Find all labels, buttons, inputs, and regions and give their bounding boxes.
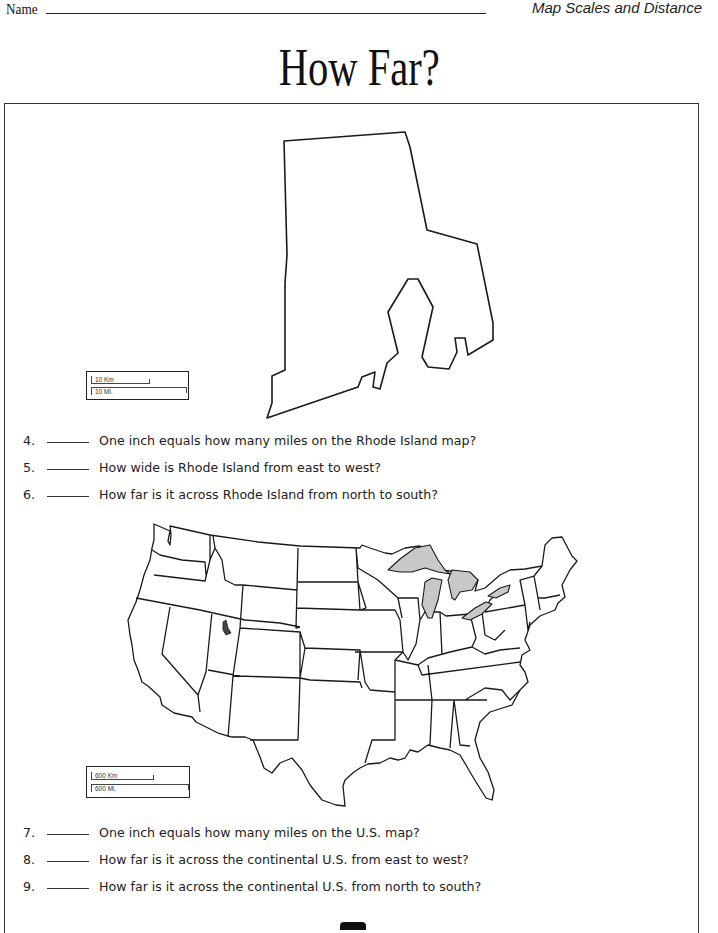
answer-blank-5[interactable]	[47, 468, 89, 470]
footer-emblem-icon	[340, 922, 366, 930]
scale-km: 600 Km	[91, 772, 153, 780]
question-9: 9.How far is it across the continental U…	[23, 879, 481, 894]
question-7: 7.One inch equals how many miles on the …	[23, 825, 420, 840]
scale-km: 10 Km	[91, 376, 149, 384]
answer-blank-9[interactable]	[47, 887, 89, 889]
answer-blank-7[interactable]	[47, 833, 89, 835]
scale-mi: 600 Mi.	[91, 784, 188, 792]
question-4: 4.One inch equals how many miles on the …	[23, 433, 476, 448]
us-map	[128, 524, 577, 806]
answer-blank-4[interactable]	[47, 441, 89, 443]
question-5: 5.How wide is Rhode Island from east to …	[23, 460, 381, 475]
question-8: 8.How far is it across the continental U…	[23, 852, 469, 867]
us-scale-box: 600 Km 600 Mi.	[86, 766, 190, 798]
answer-blank-8[interactable]	[47, 860, 89, 862]
scale-mi: 10 Mi.	[91, 387, 186, 395]
rhode-island-map	[267, 132, 493, 418]
rhode-island-scale-box: 10 Km 10 Mi.	[86, 371, 189, 400]
answer-blank-6[interactable]	[47, 495, 89, 497]
us-outline	[128, 524, 577, 806]
question-6: 6.How far is it across Rhode Island from…	[23, 487, 438, 502]
